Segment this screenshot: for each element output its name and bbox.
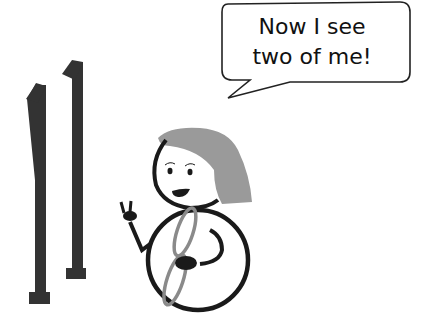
mouth bbox=[172, 189, 190, 197]
speech-bubble-text: Now I see two of me! bbox=[232, 12, 392, 72]
speech-line-2: two of me! bbox=[232, 42, 392, 72]
hair bbox=[158, 128, 252, 204]
girl-figure bbox=[121, 128, 252, 310]
left-arm bbox=[130, 222, 150, 250]
speech-line-1: Now I see bbox=[232, 12, 392, 42]
right-arm bbox=[200, 230, 222, 264]
numeral-one-right bbox=[62, 60, 86, 279]
numeral-one-left bbox=[26, 83, 50, 304]
